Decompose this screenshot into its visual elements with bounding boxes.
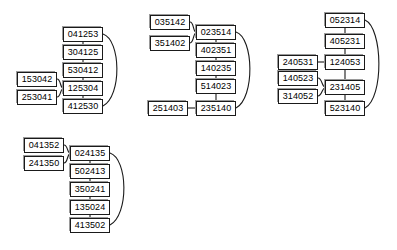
node-g1-chain-3[interactable]: 125304 [63,81,103,96]
node-g3-input-1[interactable]: 140523 [278,71,318,86]
diagram-canvas: 0412533041255304121253044125301530422530… [0,0,397,250]
node-g1-input-0[interactable]: 153042 [17,72,57,87]
node-g2-chain-3[interactable]: 514023 [196,79,236,94]
node-g2-input-1[interactable]: 351402 [150,36,190,51]
edge-g3-edge-in1 [318,78,325,87]
node-g4-input-1[interactable]: 241350 [24,156,64,171]
node-g2-chain-0[interactable]: 023514 [196,25,236,40]
edge-g2-edge-loop [236,32,250,108]
node-g3-chain-2[interactable]: 124053 [325,55,365,70]
edge-g3-edge-loop [365,20,379,108]
node-g4-input-0[interactable]: 041352 [24,138,64,153]
node-g4-chain-1[interactable]: 502413 [70,164,110,179]
node-g2-chain-2[interactable]: 140235 [196,61,236,76]
node-g1-chain-1[interactable]: 304125 [63,45,103,60]
node-g2-input-2[interactable]: 251403 [148,101,188,116]
node-g1-input-1[interactable]: 253041 [17,90,57,105]
node-g3-chain-3[interactable]: 231405 [325,80,365,95]
edge-g3-edge-in2 [318,88,325,96]
node-g3-chain-0[interactable]: 052314 [325,13,365,28]
node-g4-chain-2[interactable]: 350241 [70,182,110,197]
edge-g4-edge-loop [110,153,124,225]
edge-g1-edge-loop [103,34,117,106]
node-g4-chain-3[interactable]: 135024 [70,200,110,215]
node-g2-chain-1[interactable]: 402351 [196,43,236,58]
node-g3-input-2[interactable]: 314052 [278,89,318,104]
node-g4-chain-0[interactable]: 024135 [70,146,110,161]
node-g1-chain-4[interactable]: 412530 [63,99,103,114]
node-g3-input-0[interactable]: 240531 [278,55,318,70]
node-g2-input-0[interactable]: 035142 [150,15,190,30]
node-g3-chain-1[interactable]: 405231 [325,34,365,49]
node-g2-chain-4[interactable]: 235140 [196,101,236,116]
node-g1-chain-2[interactable]: 530412 [63,63,103,78]
node-g1-chain-0[interactable]: 041253 [63,27,103,42]
node-g4-chain-4[interactable]: 413502 [70,218,110,233]
node-g3-chain-4[interactable]: 523140 [325,101,365,116]
